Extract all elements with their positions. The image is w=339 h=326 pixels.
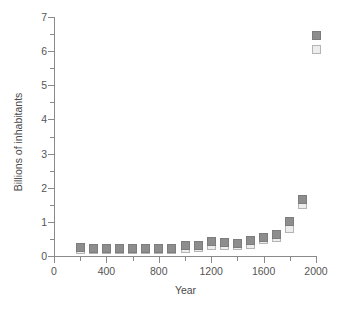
- y-tick-label: 1: [27, 217, 47, 228]
- data-point-marker: [272, 230, 281, 239]
- y-tick-minor: [50, 171, 54, 172]
- x-tick-label: 400: [84, 266, 128, 277]
- y-tick-major: [48, 17, 54, 18]
- x-tick-label: 2000: [294, 266, 338, 277]
- data-point-marker: [154, 244, 163, 253]
- data-point-marker: [220, 238, 229, 247]
- y-tick-minor: [50, 34, 54, 35]
- x-tick-minor: [237, 257, 238, 261]
- x-tick-minor: [290, 257, 291, 261]
- y-tick-major: [48, 51, 54, 52]
- x-tick-label: 1200: [189, 266, 233, 277]
- data-point-marker: [246, 236, 255, 245]
- x-tick-major: [106, 257, 107, 263]
- x-tick-minor: [185, 257, 186, 261]
- y-tick-label: 3: [27, 149, 47, 160]
- x-tick-major: [54, 257, 55, 263]
- y-tick-minor: [50, 239, 54, 240]
- data-point-marker: [167, 244, 176, 253]
- y-axis-title: Billions of inhabitants: [12, 62, 24, 222]
- y-tick-major: [48, 188, 54, 189]
- y-tick-major: [48, 85, 54, 86]
- data-point-marker: [298, 195, 307, 204]
- population-chart-figure: 01234567 0400800120016002000 Billions of…: [0, 0, 339, 326]
- y-tick-minor: [50, 205, 54, 206]
- x-tick-minor: [133, 257, 134, 261]
- x-tick-major: [264, 257, 265, 263]
- data-point-marker: [285, 217, 294, 226]
- data-point-marker: [207, 237, 216, 246]
- y-tick-label: 5: [27, 80, 47, 91]
- data-point-marker: [128, 244, 137, 253]
- data-point-marker: [141, 244, 150, 253]
- data-point-marker: [76, 243, 85, 252]
- data-point-marker: [115, 244, 124, 253]
- x-tick-major: [159, 257, 160, 263]
- y-tick-label: 4: [27, 114, 47, 125]
- data-point-marker: [312, 45, 321, 54]
- y-axis-line: [54, 17, 55, 257]
- x-tick-major: [316, 257, 317, 263]
- x-tick-major: [211, 257, 212, 263]
- y-tick-label: 7: [27, 12, 47, 23]
- y-tick-major: [48, 119, 54, 120]
- data-point-marker: [312, 31, 321, 40]
- y-tick-label: 2: [27, 183, 47, 194]
- y-tick-label: 6: [27, 46, 47, 57]
- plot-area: 01234567 0400800120016002000 Billions of…: [0, 0, 339, 326]
- y-tick-minor: [50, 68, 54, 69]
- data-point-marker: [259, 233, 268, 242]
- y-tick-minor: [50, 102, 54, 103]
- x-tick-label: 800: [137, 266, 181, 277]
- data-point-marker: [194, 241, 203, 250]
- x-tick-label: 1600: [242, 266, 286, 277]
- x-tick-label: 0: [32, 266, 76, 277]
- y-tick-minor: [50, 137, 54, 138]
- data-point-marker: [233, 239, 242, 248]
- x-axis-title: Year: [54, 284, 317, 296]
- y-tick-major: [48, 154, 54, 155]
- data-point-marker: [181, 241, 190, 250]
- data-point-marker: [102, 244, 111, 253]
- data-point-marker: [89, 244, 98, 253]
- y-tick-label: 0: [27, 251, 47, 262]
- y-tick-major: [48, 222, 54, 223]
- x-tick-minor: [80, 257, 81, 261]
